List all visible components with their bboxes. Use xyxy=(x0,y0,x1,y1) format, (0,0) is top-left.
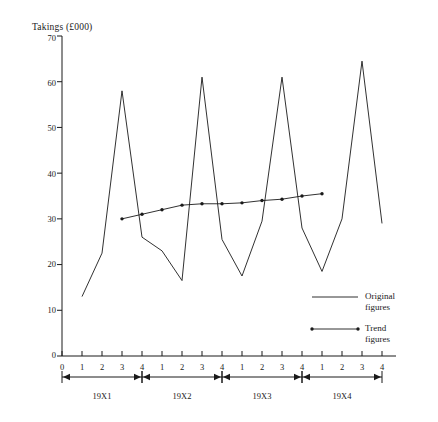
period-bracket-19x3 xyxy=(222,371,302,383)
legend-glyphs xyxy=(310,297,359,331)
period-bracket-19x4 xyxy=(302,371,382,383)
trend-marker-2 xyxy=(160,208,163,211)
original-figures-line xyxy=(82,61,382,296)
series-trend-figures xyxy=(120,192,323,221)
period-bracket-19x1 xyxy=(62,371,142,383)
trend-marker-6 xyxy=(240,201,243,204)
period-bracket-19x2 xyxy=(142,371,222,383)
trend-marker-1 xyxy=(140,213,143,216)
legend-marker-trend-end xyxy=(356,327,359,330)
trend-figures-markers xyxy=(120,192,323,221)
trend-marker-5 xyxy=(220,202,223,205)
series-original-figures xyxy=(82,61,382,296)
trend-figures-line xyxy=(122,194,322,219)
trend-marker-9 xyxy=(300,194,303,197)
takings-line-chart: Takings (£000) 70 60 50 40 30 20 10 0 0 … xyxy=(0,0,438,422)
trend-marker-3 xyxy=(180,203,183,206)
chart-vector-layer xyxy=(0,0,438,422)
trend-marker-0 xyxy=(120,217,123,220)
trend-marker-4 xyxy=(200,202,203,205)
period-brackets xyxy=(62,371,382,383)
legend-marker-trend-start xyxy=(310,327,313,330)
trend-marker-8 xyxy=(280,198,283,201)
y-axis-ticks xyxy=(57,36,62,356)
trend-marker-7 xyxy=(260,199,263,202)
trend-marker-10 xyxy=(320,192,323,195)
x-axis-ticks xyxy=(62,351,382,356)
